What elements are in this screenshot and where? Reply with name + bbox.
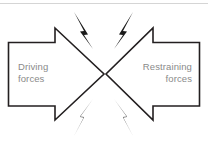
bottom-right-bolt [114, 99, 133, 136]
driving-forces-label: Driving forces [18, 61, 76, 84]
top-right-bolt [114, 12, 133, 49]
restraining-forces-label: Restraining forces [130, 61, 192, 84]
bottom-left-bolt [74, 99, 93, 136]
force-field-diagram: Driving forces Restraining forces [0, 0, 208, 148]
top-left-bolt [74, 12, 93, 49]
